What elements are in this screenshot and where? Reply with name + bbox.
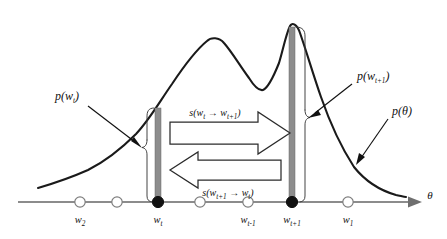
- figure-root: θ w2 wt wt-1 wt+1 w1 p(wt) p(wt+1) p(θ): [0, 0, 447, 239]
- reverse-transition-arrow: [170, 152, 281, 188]
- annotation-p-wt-plus-1: p(wt+1): [356, 69, 389, 85]
- leader-p-theta: [361, 119, 388, 158]
- tick-label-w2: w2: [75, 214, 86, 228]
- brace-p-wt-lower: [142, 140, 152, 202]
- tick-label-wt: wt: [153, 214, 163, 228]
- tick-marker-open: [112, 197, 122, 207]
- leader-p-wt: [88, 106, 135, 142]
- tick-label-wt-minus-1: wt-1: [241, 214, 256, 228]
- forward-arrow-label: s(wt → wt+1): [189, 107, 241, 121]
- tick-label-wt-plus-1: wt+1: [283, 214, 300, 228]
- brace-p-wtp1-hook: [296, 27, 305, 110]
- annotation-p-theta: p(θ): [391, 104, 412, 118]
- leader-p-wtp1-arrowhead: [308, 110, 321, 118]
- bar-p-wt: [155, 108, 161, 202]
- diagram-canvas: θ w2 wt wt-1 wt+1 w1 p(wt) p(wt+1) p(θ): [0, 0, 447, 239]
- bar-p-wtp1: [289, 27, 295, 202]
- tick-marker-solid: [152, 196, 163, 207]
- tick-marker-open: [75, 197, 85, 207]
- brace-p-wtp1-lower: [300, 110, 310, 202]
- tick-marker-open: [195, 197, 205, 207]
- tick-marker-solid: [286, 196, 297, 207]
- tick-label-w1: w1: [343, 214, 354, 228]
- annotation-p-wt: p(wt): [54, 89, 79, 105]
- tick-marker-open: [343, 197, 353, 207]
- theta-axis-arrowhead: [408, 197, 422, 208]
- theta-axis-label: θ: [427, 189, 433, 201]
